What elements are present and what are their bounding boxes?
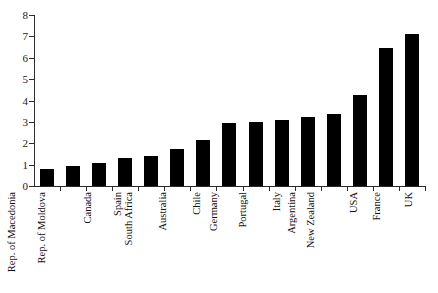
x-axis-label-text: Australia xyxy=(158,192,169,231)
bar xyxy=(327,114,341,186)
x-axis-label: Portugal xyxy=(243,192,269,292)
x-axis-label: New Zealand xyxy=(321,192,347,292)
x-axis-label-text: Argentina xyxy=(287,192,298,234)
bar xyxy=(249,122,263,186)
y-axis-tick-label: 5 xyxy=(2,74,28,85)
x-axis-label-text: USA xyxy=(349,192,360,213)
x-axis-tick xyxy=(373,186,374,191)
bar-slot xyxy=(347,15,373,186)
x-axis-label: France xyxy=(373,192,399,292)
x-axis-tick xyxy=(295,186,296,191)
y-axis-tick-label: 0 xyxy=(2,181,28,192)
x-axis-tick xyxy=(425,186,426,191)
bar xyxy=(222,123,236,186)
bar xyxy=(40,169,54,186)
x-axis-tick xyxy=(243,186,244,191)
x-axis-label-text: Germany xyxy=(210,192,221,231)
y-axis-tick-label: 2 xyxy=(2,138,28,149)
y-axis-tick-label: 7 xyxy=(2,31,28,42)
x-axis-label: UK xyxy=(399,192,425,292)
x-axis-label-text: Canada xyxy=(83,192,94,224)
x-axis-tick xyxy=(138,186,139,191)
x-axis-label-text: Spain xyxy=(113,192,124,216)
bar xyxy=(196,140,210,186)
bar-slot xyxy=(399,15,425,186)
y-axis-tick-label: 6 xyxy=(2,52,28,63)
x-axis-tick xyxy=(60,186,61,191)
x-axis-tick xyxy=(86,186,87,191)
bar-slot xyxy=(373,15,399,186)
bar xyxy=(92,163,106,186)
y-axis-tick-label: 1 xyxy=(2,159,28,170)
bar xyxy=(275,120,289,186)
y-axis-tick-label: 4 xyxy=(2,95,28,106)
bar xyxy=(405,34,419,186)
bar-slot xyxy=(86,15,112,186)
x-axis-tick xyxy=(269,186,270,191)
y-axis-tick-label: 8 xyxy=(2,10,28,21)
x-axis-label: Canada xyxy=(86,192,112,292)
bar-series xyxy=(34,15,425,186)
x-axis-tick xyxy=(190,186,191,191)
bar-slot xyxy=(321,15,347,186)
x-axis-tick xyxy=(164,186,165,191)
bar-slot xyxy=(112,15,138,186)
x-axis-tick xyxy=(399,186,400,191)
x-axis-label-text: Rep. of Macedonia xyxy=(7,192,18,272)
x-axis-label-text: Portugal xyxy=(238,192,249,228)
x-axis-label-text: New Zealand xyxy=(306,192,317,248)
bar-slot xyxy=(34,15,60,186)
bar xyxy=(144,156,158,186)
x-axis-tick xyxy=(347,186,348,191)
bar xyxy=(301,117,315,186)
x-axis-label-text: Rep. of Moldova xyxy=(37,192,48,263)
bar-slot xyxy=(295,15,321,186)
x-axis-label-text: Italy xyxy=(272,192,283,211)
bar xyxy=(170,149,184,186)
bar-chart: 012345678 Rep. of MacedoniaRep. of Moldo… xyxy=(0,0,438,293)
bar-slot xyxy=(243,15,269,186)
bar-slot xyxy=(60,15,86,186)
bar xyxy=(118,158,132,186)
bar xyxy=(353,95,367,186)
bar-slot xyxy=(138,15,164,186)
x-axis-line xyxy=(34,186,425,187)
bar-slot xyxy=(269,15,295,186)
x-axis-label: USA xyxy=(347,192,373,292)
bar-slot xyxy=(164,15,190,186)
y-axis-tick-label: 3 xyxy=(2,116,28,127)
x-axis-label: Australia xyxy=(164,192,190,292)
x-axis-tick xyxy=(112,186,113,191)
x-axis-labels: Rep. of MacedoniaRep. of MoldovaCanadaSp… xyxy=(34,192,425,292)
bar xyxy=(66,166,80,186)
x-axis-label-text: South Africa xyxy=(125,192,136,245)
x-axis-label-text: France xyxy=(372,192,383,221)
x-axis-label-text: Chile xyxy=(192,192,203,215)
bar xyxy=(379,48,393,186)
x-axis-label-text: UK xyxy=(404,192,415,207)
bar-slot xyxy=(216,15,242,186)
bar-slot xyxy=(190,15,216,186)
x-axis-tick xyxy=(216,186,217,191)
x-axis-tick xyxy=(321,186,322,191)
